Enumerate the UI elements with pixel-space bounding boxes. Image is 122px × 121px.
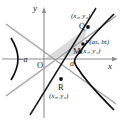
point-R-coords-label: (x₃, y₃) — [49, 93, 68, 100]
point-M-coords-label: (x₁, y₁) — [81, 48, 100, 55]
origin-label: O — [37, 61, 43, 70]
point-Q-label: Q — [79, 22, 85, 31]
point-M-label: M — [73, 47, 81, 56]
hyperbola-figure: y x O a −a (x₂, y₂) Q P(as, bt) M (x₁, y… — [0, 0, 122, 121]
x-axis-arrow — [112, 57, 118, 61]
point-R-marker — [59, 77, 63, 81]
vertex-right-label: a — [70, 60, 74, 68]
y-axis-label: y — [33, 4, 37, 13]
x-axis-label: x — [108, 62, 112, 71]
point-Q-marker — [86, 25, 90, 29]
vertex-left-label: −a — [18, 56, 27, 64]
point-R-label: R — [58, 83, 64, 92]
point-P-label: P(as, bt) — [85, 39, 109, 46]
point-Q-coords-label: (x₂, y₂) — [71, 13, 90, 20]
y-axis-arrow — [42, 7, 46, 13]
